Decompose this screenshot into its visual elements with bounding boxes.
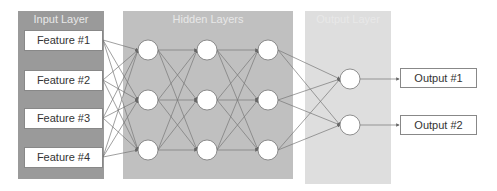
input-feature-2: Feature #2 [24,70,103,91]
output-node [340,69,360,89]
input-feature-1: Feature #1 [24,30,103,51]
hidden-node [197,90,217,110]
input-feature-4: Feature #4 [24,147,103,168]
hidden-node [138,140,158,160]
hidden-node [197,40,217,60]
hidden-node [258,140,278,160]
hidden-node [258,90,278,110]
input-feature-3: Feature #3 [24,108,103,129]
output-1: Output #1 [400,68,477,88]
hidden-node [258,40,278,60]
output-2: Output #2 [400,115,477,135]
hidden-node [197,140,217,160]
hidden-node [138,90,158,110]
hidden-node [138,40,158,60]
output-node [340,115,360,135]
